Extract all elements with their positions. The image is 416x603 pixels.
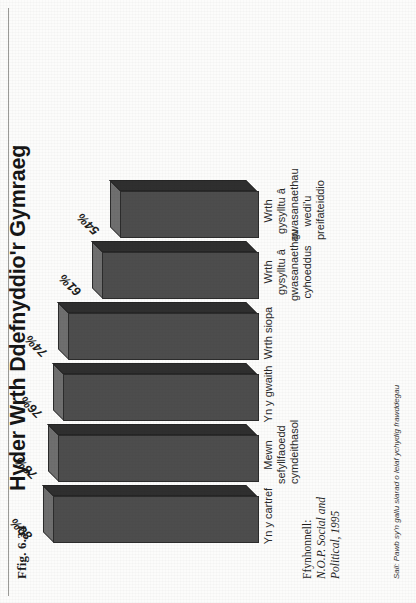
bar-side-face (109, 180, 257, 191)
category-label-line: Wrth gysylltu â (262, 243, 288, 301)
bar (120, 191, 259, 238)
category-label: Yn y gwaith (262, 365, 275, 423)
category-label-line: Mewn sefyllfaoedd (262, 426, 288, 484)
bar-side-face (91, 241, 257, 252)
category-label: Wrth gysylltu âgwasanaethau wedi'upreifa… (262, 182, 327, 240)
bar-side-face (57, 302, 257, 313)
source-line-2: Political, 1995 (328, 419, 342, 579)
category-label-line: Yn y gwaith (262, 365, 275, 423)
category-label: Wrth siopa (262, 304, 275, 362)
bar-value-label: 54% (74, 210, 102, 238)
source-lead: Ffynhonnell: (300, 419, 314, 579)
category-label-line: gwasanaethau wedi'u (288, 182, 314, 240)
category-label-line: Wrth siopa (262, 304, 275, 362)
bar (53, 496, 259, 543)
basis-footnote: Sail: Pawb sy'n gallu siarad o leiaf ych… (392, 385, 401, 579)
category-label-line: Yn y cartref (262, 487, 275, 545)
category-label: Yn y cartref (262, 487, 275, 545)
source-note: Ffynhonnell: N.O.P. Social and Political… (300, 419, 342, 579)
bar (63, 374, 259, 421)
rotated-figure-content: Ffig. 6.34 Hyder Wrth Ddefnyddio'r Gymra… (0, 0, 416, 603)
bar (58, 435, 259, 482)
figure-page: Ffig. 6.34 Hyder Wrth Ddefnyddio'r Gymra… (0, 0, 416, 603)
category-label-line: gwasanaethau (288, 243, 301, 301)
bar (102, 252, 259, 299)
bar-side-face (47, 424, 257, 435)
category-label: Mewn sefyllfaoeddcymdeithasol (262, 426, 301, 484)
source-line-1: N.O.P. Social and (314, 419, 328, 579)
category-label-line: Wrth gysylltu â (262, 182, 288, 240)
bar-value-label: 61% (56, 271, 84, 299)
bar (68, 313, 259, 360)
category-label-line: preifateiddio (314, 182, 327, 240)
bar-side-face (52, 363, 257, 374)
category-label: Wrth gysylltu âgwasanaethaucyhoeddus (262, 243, 314, 301)
bar-value-label: 80% (7, 515, 35, 543)
bar-side-face (42, 485, 257, 496)
bar-chart-plot-area: 80%78%76%74%61%54% (44, 0, 259, 603)
category-label-line: cyhoeddus (301, 243, 314, 301)
chart-title: Hyder Wrth Ddefnyddio'r Gymraeg (6, 145, 31, 491)
